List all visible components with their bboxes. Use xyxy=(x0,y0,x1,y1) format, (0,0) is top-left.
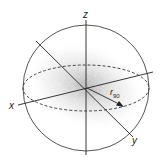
r90-label-subscript: 90 xyxy=(113,93,120,99)
z-axis-label: z xyxy=(83,10,88,20)
x-axis-label: x xyxy=(9,101,14,111)
r90-label: r90 xyxy=(110,88,120,99)
y-axis-label: y xyxy=(132,136,137,146)
